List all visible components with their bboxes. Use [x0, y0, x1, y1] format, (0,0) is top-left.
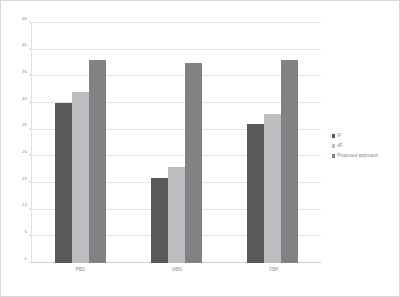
y-tick-label: 35: [22, 70, 27, 74]
bar: [72, 92, 89, 263]
legend-swatch-icon: [332, 144, 335, 148]
y-tick-mark: [29, 128, 31, 129]
bar: [55, 103, 72, 263]
legend-label: Proposed approach: [337, 154, 378, 159]
y-tick-mark: [29, 22, 31, 23]
y-tick-label: 0: [24, 256, 27, 260]
bar-group: [55, 23, 106, 263]
chart-figure: 051015202530354045 PBSMBSFBP IFdFPropose…: [0, 0, 400, 297]
x-tick-label: PBS: [75, 267, 85, 272]
y-tick-label: 5: [24, 230, 27, 234]
y-tick-mark: [29, 235, 31, 236]
legend-entry: Proposed approach: [332, 154, 378, 159]
y-tick-label: 20: [22, 150, 27, 154]
y-tick-mark: [29, 48, 31, 49]
y-tick-label: 30: [22, 96, 27, 100]
bar-group: [247, 23, 298, 263]
y-tick-mark: [29, 75, 31, 76]
bar-groups: [32, 23, 321, 263]
legend-label: IF: [337, 134, 341, 139]
legend-swatch-icon: [332, 154, 335, 158]
y-tick-mark: [29, 182, 31, 183]
bar: [264, 114, 281, 263]
bar: [151, 178, 168, 263]
legend-swatch-icon: [332, 134, 335, 138]
y-tick-label: 40: [22, 43, 27, 47]
y-tick-label: 25: [22, 123, 27, 127]
y-tick-mark: [29, 102, 31, 103]
legend-entry: dF: [332, 144, 378, 149]
x-axis-tick-labels: PBSMBSFBP: [32, 267, 322, 272]
bar: [168, 167, 185, 263]
x-tick-label: MBS: [172, 267, 182, 272]
plot-area: 051015202530354045: [31, 23, 321, 263]
y-tick-label: 45: [22, 16, 27, 20]
y-tick-label: 15: [22, 176, 27, 180]
y-tick-mark: [29, 262, 31, 263]
bar: [185, 63, 202, 263]
bar-group: [151, 23, 202, 263]
y-tick-mark: [29, 208, 31, 209]
bar: [247, 124, 264, 263]
chart-legend: IFdFProposed approach: [332, 134, 378, 159]
legend-label: dF: [337, 144, 342, 149]
x-tick-label: FBP: [269, 267, 278, 272]
legend-entry: IF: [332, 134, 378, 139]
bar: [281, 60, 298, 263]
bar: [89, 60, 106, 263]
y-tick-label: 10: [22, 203, 27, 207]
y-tick-mark: [29, 155, 31, 156]
